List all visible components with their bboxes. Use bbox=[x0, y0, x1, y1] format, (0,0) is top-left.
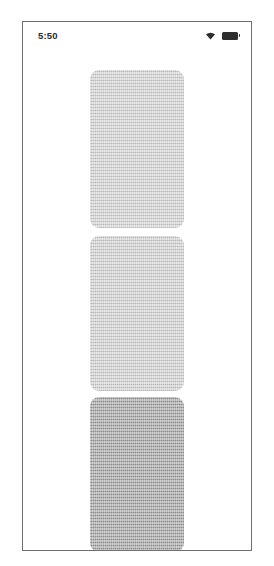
status-bar: 5:50 bbox=[23, 22, 251, 49]
placeholder-card-list[interactable] bbox=[23, 49, 251, 551]
list-item[interactable] bbox=[90, 236, 184, 391]
list-item[interactable] bbox=[90, 397, 184, 551]
status-bar-icons bbox=[205, 31, 238, 40]
list-item[interactable] bbox=[90, 70, 184, 228]
phone-frame: 5:50 bbox=[22, 21, 252, 551]
status-bar-time: 5:50 bbox=[38, 31, 58, 41]
battery-icon bbox=[222, 32, 238, 40]
wifi-icon bbox=[205, 31, 216, 40]
